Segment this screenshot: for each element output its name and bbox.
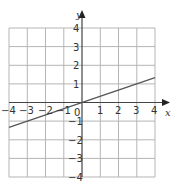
y-tick: −4 <box>68 172 83 183</box>
y-tick: 3 <box>73 42 79 53</box>
x-tick: −4 <box>1 105 16 116</box>
x-axis-label: x <box>165 107 171 118</box>
y-tick: −1 <box>68 116 83 127</box>
y-axis-label: y <box>75 9 82 20</box>
x-axis-arrow-icon <box>162 99 170 106</box>
y-tick: 1 <box>73 79 79 90</box>
x-tick: −2 <box>38 105 53 116</box>
x-tick: 3 <box>133 105 139 116</box>
y-tick: 2 <box>73 60 79 71</box>
y-tick: −3 <box>68 153 83 164</box>
x-tick: 1 <box>97 105 103 116</box>
y-tick: −2 <box>68 135 83 146</box>
x-tick: −3 <box>19 105 34 116</box>
y-tick: 4 <box>73 23 79 34</box>
x-tick: 4 <box>151 105 157 116</box>
coordinate-plane: x y 0 −4 −3 −2 −1 1 2 3 4 4 3 2 1 −1 −2 … <box>0 0 174 187</box>
axes <box>9 14 166 177</box>
x-tick: −1 <box>56 105 71 116</box>
x-tick: 2 <box>115 105 121 116</box>
